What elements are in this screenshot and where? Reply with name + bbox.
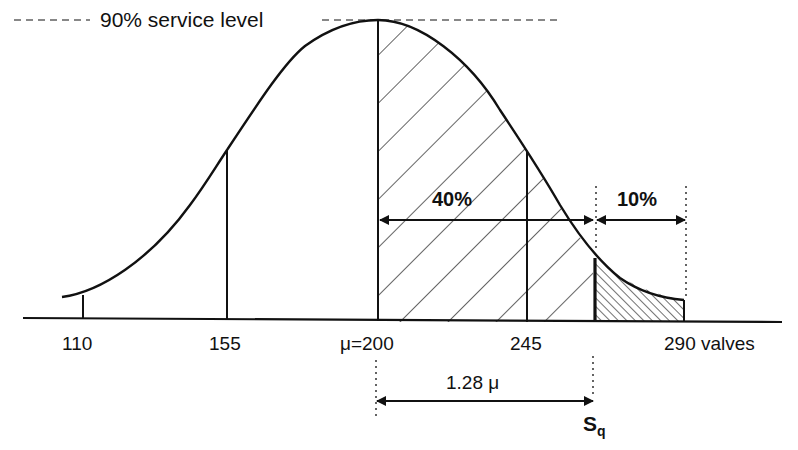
- reorder-point-main: S: [583, 412, 597, 435]
- region-label-10: 10%: [617, 188, 657, 210]
- tick-label-155: 155: [209, 333, 241, 354]
- tick-label-110: 110: [62, 333, 92, 354]
- reorder-point-label: Sq: [583, 412, 606, 439]
- tick-label-245: 245: [510, 333, 542, 354]
- distance-label-1-28-mu: 1.28 μ: [446, 372, 499, 393]
- tick-label-mean-200: μ=200: [340, 333, 394, 354]
- region-label-40: 40%: [432, 188, 472, 210]
- reorder-point-subscript: q: [597, 423, 606, 439]
- service-level-label: 90% service level: [100, 8, 263, 31]
- hatched-region-40: [378, 20, 593, 322]
- normal-distribution-diagram: 90% service level 40% 10% 110 155 μ=200 …: [0, 0, 798, 450]
- tick-label-290-valves: 290 valves: [664, 333, 755, 354]
